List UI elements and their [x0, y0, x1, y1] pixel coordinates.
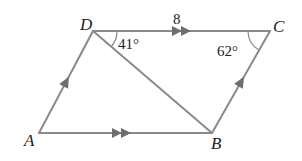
single-arrow-icon: [59, 74, 73, 88]
angle-label-c: 62°: [217, 43, 238, 59]
parallelogram-diagram: D C A B 8 41° 62°: [0, 0, 302, 161]
double-arrow-icon: [172, 26, 191, 36]
angle-arc-c: [248, 31, 259, 50]
single-arrow-icon: [234, 74, 248, 89]
side-length-dc: 8: [173, 11, 181, 27]
vertex-label-c: C: [273, 17, 285, 36]
vertex-label-a: A: [23, 131, 35, 150]
angle-label-d: 41°: [118, 36, 139, 52]
vertex-label-b: B: [211, 134, 222, 153]
angle-arc-d: [111, 31, 117, 47]
double-arrow-icon: [112, 128, 131, 138]
vertex-label-d: D: [79, 15, 93, 34]
